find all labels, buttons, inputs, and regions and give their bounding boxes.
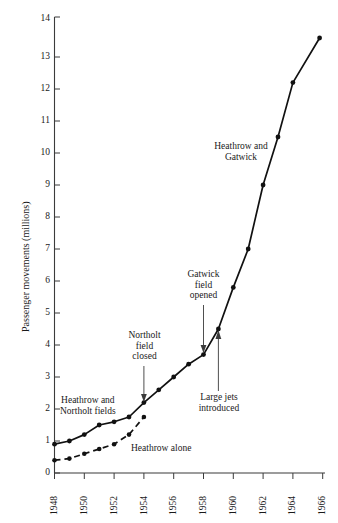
x-tick-label-1962: 1962 [259,496,269,515]
y-tick-label-7: 7 [30,244,50,254]
arrow-northolt-closed [141,366,147,402]
annotation-line: field [176,280,231,291]
x-tick-label-1964: 1964 [288,496,298,515]
y-tick-label-8: 8 [30,212,50,222]
x-tick-label-1954: 1954 [140,496,150,515]
annotation-line: Large jets [189,392,249,403]
x-tick-label-1958: 1958 [199,496,209,515]
series-heathrow-gatwick-markers [52,36,322,447]
y-tick-label-1: 1 [30,436,50,446]
y-tick-label-2: 2 [30,404,50,414]
x-axis-ticks [55,473,323,479]
y-tick-label-10: 10 [26,148,50,158]
annotation-large-jets-introduced: Large jets introduced [189,392,249,413]
x-tick-label-1960: 1960 [229,496,239,515]
annotation-heathrow-alone: Heathrow alone [131,443,191,454]
annotation-line: Northolt fields [60,406,116,417]
y-tick-label-5: 5 [30,308,50,318]
arrow-gatwick-opened [201,305,207,353]
annotation-line: introduced [189,403,249,414]
y-tick-label-9: 9 [30,180,50,190]
y-tick-label-14: 14 [26,14,50,24]
x-tick-label-1956: 1956 [169,496,179,515]
y-tick-label-11: 11 [26,116,50,126]
annotation-line: opened [176,290,231,301]
annotation-line: Gatwick [176,269,231,280]
x-tick-label-1952: 1952 [110,496,120,515]
annotation-gatwick-field-opened: Gatwick field opened [176,269,231,301]
y-tick-label-6: 6 [30,276,50,286]
annotation-line: Northolt [117,330,172,341]
series-heathrow-gatwick [55,38,320,444]
annotation-line: closed [117,351,172,362]
y-tick-label-13: 13 [26,52,50,62]
y-tick-label-0: 0 [30,468,50,478]
annotation-northolt-field-closed: Northolt field closed [117,330,172,362]
annotation-line: field [117,341,172,352]
x-tick-label-1948: 1948 [50,496,60,515]
series-heathrow-alone-markers [52,415,146,463]
annotation-heathrow-northolt-fields: Heathrow and Northolt fields [60,395,116,416]
y-tick-label-4: 4 [30,340,50,350]
annotation-line: Gatwick [202,152,280,163]
y-tick-label-12: 12 [26,84,50,94]
annotation-line: Heathrow and [202,141,280,152]
y-tick-label-3: 3 [30,372,50,382]
annotation-heathrow-and-gatwick: Heathrow and Gatwick [202,141,280,162]
arrow-large-jets [216,330,222,391]
x-tick-label-1950: 1950 [80,496,90,515]
annotation-line: Heathrow and [60,395,116,406]
x-tick-label-1966: 1966 [318,496,328,515]
chart-figure: Passenger movements (millions) 0 1 2 3 4… [0,0,338,523]
annotation-line: Heathrow alone [131,443,191,454]
